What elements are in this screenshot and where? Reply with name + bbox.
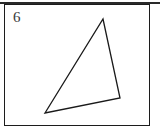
figure-panel: 6	[0, 0, 160, 132]
triangle-shape	[45, 19, 120, 113]
triangle-drawing	[0, 0, 160, 132]
